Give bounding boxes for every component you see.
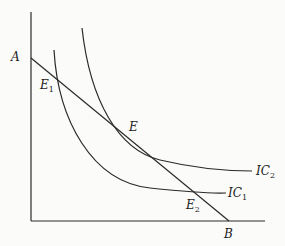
indifference-curve-ic1 bbox=[54, 50, 226, 193]
label-b: B bbox=[223, 227, 233, 241]
label-ic2: IC2 bbox=[255, 164, 275, 180]
label-ic1: IC1 bbox=[227, 186, 247, 202]
label-e1: E1 bbox=[39, 78, 54, 94]
indifference-curve-ic2 bbox=[82, 28, 252, 171]
label-e2: E2 bbox=[185, 198, 200, 214]
indifference-diagram: A B E1 E E2 IC1 IC2 bbox=[0, 0, 285, 246]
budget-line bbox=[31, 58, 229, 221]
label-e: E bbox=[128, 120, 138, 134]
label-a: A bbox=[10, 50, 20, 64]
